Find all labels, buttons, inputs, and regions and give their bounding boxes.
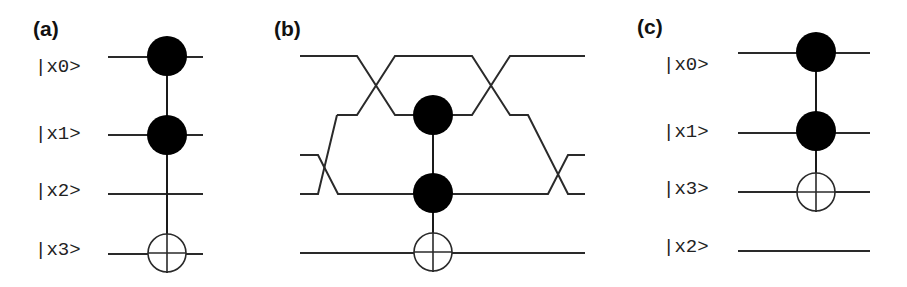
cnot-target-icon xyxy=(414,233,452,272)
toffoli-gate xyxy=(147,36,187,273)
panel-label: (b) xyxy=(274,17,301,40)
qubit-label: |x2> xyxy=(663,236,709,258)
cnot-target-icon xyxy=(797,173,835,212)
swap-wire-path xyxy=(337,56,585,194)
quantum-circuit-figure: (a)|x0>|x1>|x2>|x3> (b) (c)|x0>|x1>|x3>|… xyxy=(0,0,907,287)
control-dot-icon xyxy=(796,32,836,72)
swap-wire-path xyxy=(432,56,585,115)
swap-wire-path xyxy=(300,56,432,115)
cnot-target-icon xyxy=(148,234,186,273)
panel-label: (a) xyxy=(33,17,59,40)
qubit-label: |x0> xyxy=(35,56,81,78)
panel-c-reordered-toffoli-circuit: (c)|x0>|x1>|x3>|x2> xyxy=(637,15,870,258)
qubit-label: |x1> xyxy=(663,121,709,143)
qubit-label: |x3> xyxy=(35,239,81,261)
control-dot-icon xyxy=(796,111,836,151)
panel-a-toffoli-circuit: (a)|x0>|x1>|x2>|x3> xyxy=(33,17,203,273)
qubit-label: |x1> xyxy=(35,123,81,145)
panel-label: (c) xyxy=(637,15,663,38)
qubit-label: |x0> xyxy=(663,54,709,76)
control-dot-icon xyxy=(147,115,187,155)
toffoli-gate xyxy=(796,32,836,212)
qubit-label: |x3> xyxy=(663,178,709,200)
toffoli-gate xyxy=(413,95,453,272)
qubit-label: |x2> xyxy=(35,180,81,202)
panel-b-swap-toffoli-circuit: (b) xyxy=(274,17,585,272)
control-dot-icon xyxy=(147,36,187,76)
control-dot-icon xyxy=(413,173,453,213)
control-dot-icon xyxy=(413,95,453,135)
